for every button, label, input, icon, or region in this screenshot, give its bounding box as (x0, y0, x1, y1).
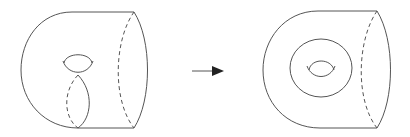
arrow-head (212, 66, 224, 76)
meridian-solid-arc (78, 75, 89, 128)
outer-boundary-left (21, 12, 134, 128)
hole-bottom (307, 66, 335, 77)
surface-after (263, 11, 391, 128)
dashed-cut-arc-right (361, 11, 377, 128)
handle-hole-bottom (63, 61, 93, 72)
right-solid-arc-left (134, 12, 148, 128)
right-solid-arc-right (377, 11, 391, 128)
diagram-canvas (0, 0, 410, 137)
outer-boundary-right (263, 11, 377, 128)
dashed-cut-arc-left (118, 12, 134, 128)
meridian-dashed-arc (67, 75, 78, 128)
surface-before (21, 12, 148, 128)
transform-arrow (192, 66, 224, 76)
hole-top (309, 61, 334, 70)
handle-hole-top (64, 55, 92, 63)
inner-circle (290, 39, 352, 97)
